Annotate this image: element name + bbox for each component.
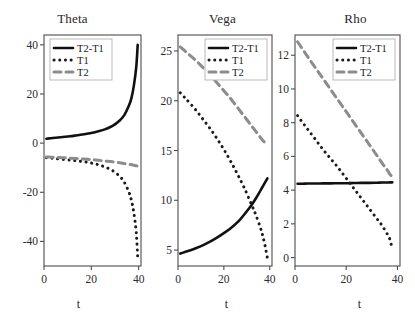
legend-label-t2: T2 <box>77 67 89 78</box>
legend-label-t2: T2 <box>232 67 244 78</box>
series-line-t2 <box>46 157 137 166</box>
svg-text:-40: -40 <box>23 235 39 247</box>
panel-theta: Theta -40-200204002040T2-T1T1T2 t <box>0 0 145 318</box>
legend-label-t2-t1: T2-T1 <box>360 43 387 54</box>
legend-label-t1: T1 <box>232 55 244 66</box>
axis-label-x-theta: t <box>6 297 151 312</box>
axis-label-x-vega: t <box>161 297 292 312</box>
svg-text:20: 20 <box>218 273 230 285</box>
svg-text:20: 20 <box>161 95 173 107</box>
panel-vega: Vega 51015202502040T2-T1T1T2 t <box>145 0 276 318</box>
svg-text:25: 25 <box>161 45 173 57</box>
svg-text:10: 10 <box>161 194 173 206</box>
svg-text:40: 40 <box>264 273 276 285</box>
legend: T2-T1T1T2 <box>333 39 395 80</box>
svg-text:20: 20 <box>27 88 39 100</box>
plot-rho: 02468101202040T2-T1T1T2 <box>276 0 415 318</box>
svg-text:0: 0 <box>32 137 38 149</box>
svg-text:2: 2 <box>283 218 289 230</box>
plot-theta: -40-200204002040T2-T1T1T2 <box>0 0 145 318</box>
legend: T2-T1T1T2 <box>50 39 112 80</box>
svg-text:6: 6 <box>283 150 289 162</box>
svg-text:15: 15 <box>161 145 173 157</box>
axis-label-x-rho: t <box>290 297 415 312</box>
series-line-t1 <box>46 158 137 258</box>
svg-text:8: 8 <box>283 117 289 129</box>
panel-rho: Rho 02468101202040T2-T1T1T2 t <box>276 0 415 318</box>
svg-text:20: 20 <box>340 273 352 285</box>
svg-text:4: 4 <box>283 184 289 196</box>
legend-label-t2-t1: T2-T1 <box>232 43 259 54</box>
legend-label-t1: T1 <box>360 55 372 66</box>
svg-text:40: 40 <box>392 273 404 285</box>
greeks-figure: Theta -40-200204002040T2-T1T1T2 t Vega 5… <box>0 0 415 318</box>
plot-vega: 51015202502040T2-T1T1T2 <box>145 0 276 318</box>
legend: T2-T1T1T2 <box>205 39 267 80</box>
svg-text:10: 10 <box>278 83 290 95</box>
svg-text:40: 40 <box>133 273 145 285</box>
svg-text:12: 12 <box>278 49 290 61</box>
svg-text:40: 40 <box>27 39 39 51</box>
svg-text:5: 5 <box>166 244 172 256</box>
svg-text:-20: -20 <box>23 186 39 198</box>
series-line-t2-t1 <box>298 182 393 183</box>
legend-label-t1: T1 <box>77 55 89 66</box>
svg-text:0: 0 <box>283 252 289 264</box>
legend-label-t2: T2 <box>360 67 372 78</box>
series-line-t2-t1 <box>180 178 267 253</box>
svg-text:0: 0 <box>292 273 298 285</box>
svg-text:20: 20 <box>86 273 98 285</box>
svg-text:0: 0 <box>41 273 47 285</box>
legend-label-t2-t1: T2-T1 <box>77 43 104 54</box>
svg-text:0: 0 <box>175 273 181 285</box>
